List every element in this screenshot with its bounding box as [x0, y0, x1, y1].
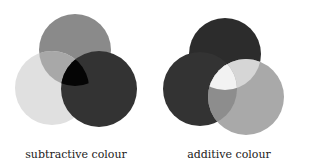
additive-caption: additive colour [167, 148, 291, 161]
additive-diagram [163, 18, 284, 135]
subtractive-diagram [15, 14, 137, 127]
subtractive-caption: subtractive colour [14, 148, 138, 161]
colour-mixing-figure [0, 0, 314, 168]
